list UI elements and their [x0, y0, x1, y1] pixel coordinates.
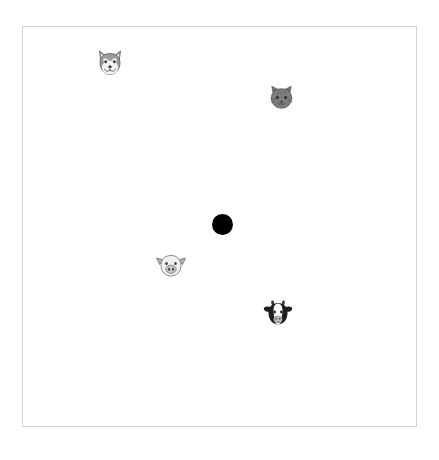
- wolf-face-icon: [94, 47, 126, 79]
- center-dot[interactable]: [212, 214, 233, 235]
- scene-canvas: [0, 0, 439, 460]
- marker-cow[interactable]: [262, 297, 294, 329]
- marker-pig[interactable]: [155, 249, 187, 281]
- cow-face-icon: [262, 297, 294, 329]
- cat-face-icon: [266, 82, 297, 113]
- pig-face-icon: [155, 249, 187, 281]
- marker-wolf[interactable]: [94, 47, 126, 79]
- marker-cat[interactable]: [266, 82, 297, 113]
